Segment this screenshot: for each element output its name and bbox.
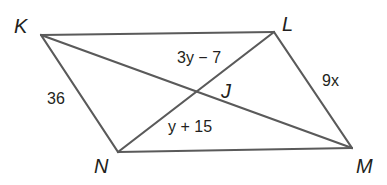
vertex-label-L: L xyxy=(282,13,293,35)
segment-label-JN: y + 15 xyxy=(168,118,212,135)
vertex-label-N: N xyxy=(94,155,109,177)
side-MN xyxy=(118,148,352,152)
side-label-KN: 36 xyxy=(47,90,65,107)
vertex-label-K: K xyxy=(14,15,29,37)
side-label-LM: 9x xyxy=(322,72,339,89)
parallelogram-diagram: K L M N J 36 9x 3y − 7 y + 15 xyxy=(0,0,387,185)
side-KL xyxy=(41,32,274,35)
intersection-label-J: J xyxy=(220,80,232,102)
side-LM xyxy=(274,32,352,148)
segment-label-LJ: 3y − 7 xyxy=(177,49,221,66)
vertex-label-M: M xyxy=(356,155,373,177)
